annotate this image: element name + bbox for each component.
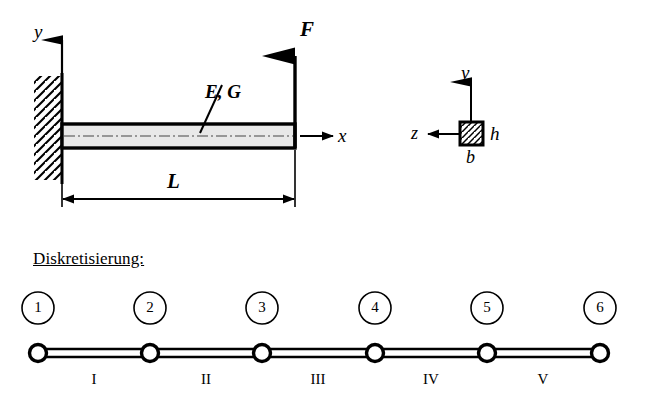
beam-discretization-figure: y x F E, G L y z h b Diskretisierung: 1 … [0, 0, 647, 416]
node-label-5: 5 [472, 300, 502, 315]
element-label-IV: IV [411, 372, 451, 387]
cross-section-group [428, 82, 483, 145]
section-width-label: b [466, 148, 475, 166]
node-marker-6 [592, 345, 609, 362]
node-label-3: 3 [247, 300, 277, 315]
figure-canvas [0, 0, 647, 416]
length-label: L [167, 171, 180, 192]
node-marker-3 [254, 345, 271, 362]
node-marker-4 [367, 345, 384, 362]
element-label-III: III [298, 372, 338, 387]
discretization-nodes [30, 345, 609, 362]
node-label-4: 4 [360, 300, 390, 315]
element-label-V: V [523, 372, 563, 387]
force-label: F [300, 19, 314, 40]
discretization-heading: Diskretisierung: [33, 250, 144, 267]
section-height-label: h [490, 124, 500, 143]
fixed-support-hatching [34, 76, 62, 180]
node-label-1: 1 [23, 300, 53, 315]
node-label-6: 6 [585, 300, 615, 315]
material-label: E, G [205, 82, 241, 101]
section-z-axis-label: z [411, 124, 418, 142]
y-axis-label: y [34, 22, 42, 41]
node-marker-2 [142, 345, 159, 362]
section-y-axis-label: y [461, 63, 469, 82]
node-marker-1 [30, 345, 47, 362]
discretization-beam-line [38, 349, 600, 357]
beam-body [62, 124, 295, 148]
node-marker-5 [479, 345, 496, 362]
node-badge-circles [22, 292, 616, 324]
element-label-I: I [74, 372, 114, 387]
node-label-2: 2 [135, 300, 165, 315]
x-axis-label: x [338, 126, 346, 145]
element-label-II: II [186, 372, 226, 387]
